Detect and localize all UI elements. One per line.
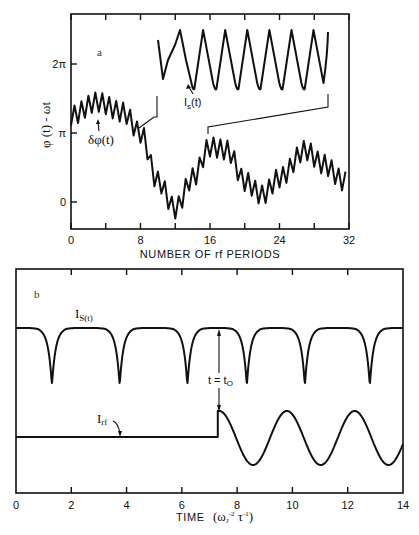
panel-a-xlabel: NUMBER OF rf PERIODS bbox=[140, 248, 280, 260]
inset-is-curve bbox=[158, 30, 328, 89]
xtick-label: 16 bbox=[204, 234, 216, 246]
xtick-label: 32 bbox=[343, 234, 355, 246]
xtick-label: 12 bbox=[342, 499, 354, 511]
panel-a-xtick-labels: 08162432 bbox=[68, 234, 355, 246]
xtick-label: 14 bbox=[397, 499, 409, 511]
ytick-label-0: 0 bbox=[60, 196, 66, 208]
panel-b-xlabel: TIME bbox=[176, 511, 205, 523]
irf-label: Irf bbox=[97, 411, 107, 427]
figure: a φ (t) - ωt 2π π 0 08162432 NUMBER OF r… bbox=[0, 0, 419, 535]
xtick-label: 10 bbox=[286, 499, 298, 511]
panel-a-tag: a bbox=[97, 46, 102, 58]
panel-a-xticks bbox=[71, 14, 349, 229]
xtick-label: 0 bbox=[68, 234, 74, 246]
t0-arrowhead-up bbox=[217, 329, 221, 336]
ytick-label-pi: π bbox=[58, 127, 66, 139]
ytick-label-2pi: 2π bbox=[52, 58, 66, 70]
panel-a-frame bbox=[71, 14, 349, 229]
xtick-label: 2 bbox=[68, 499, 74, 511]
xtick-label: 8 bbox=[137, 234, 143, 246]
xtick-label: 4 bbox=[124, 499, 130, 511]
inset-is-label: Is(t) bbox=[184, 96, 201, 111]
panel-a-ylabel: φ (t) - ωt bbox=[38, 102, 53, 148]
panel-b-xtick-labels: 02468101214 bbox=[13, 499, 409, 511]
inset-bracket-right bbox=[208, 94, 328, 134]
xtick-label: 0 bbox=[13, 499, 19, 511]
panel-a-yticks bbox=[71, 64, 77, 202]
panel-b-tag: b bbox=[34, 288, 40, 300]
delta-phi-arrowhead bbox=[96, 119, 100, 124]
inset-bracket-left bbox=[139, 96, 157, 128]
panel-b-xunits: (ωJ-2 τ-1) bbox=[213, 509, 253, 525]
irf-curve bbox=[16, 411, 403, 465]
xtick-label: 24 bbox=[273, 234, 285, 246]
t0-label: t = tO bbox=[208, 374, 233, 388]
panel-a: a φ (t) - ωt 2π π 0 08162432 NUMBER OF r… bbox=[38, 14, 355, 260]
panel-b: 02468101214 b IS(t) Irf t = tO TIME (ωJ-… bbox=[13, 269, 409, 525]
delta-phi-label: δφ(t) bbox=[88, 132, 114, 147]
is-label: IS(t) bbox=[75, 306, 93, 323]
xtick-label: 6 bbox=[179, 499, 185, 511]
